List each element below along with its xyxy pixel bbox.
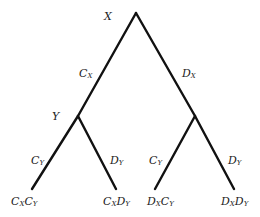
leaf-label-cxcy: CXCY [11,196,37,207]
leaf-label-dxcy: DXCY [147,196,174,207]
edge-left-right [78,116,116,189]
edge-left-left [32,116,78,189]
edge-label-left-cy: CY [31,155,44,166]
edge-root-left [78,13,136,116]
edge-right-left [155,116,195,189]
edge-right-right [195,116,234,189]
edge-root-right [136,13,195,116]
edge-label-right-dy: DY [228,155,241,166]
edge-label-right-cy: CY [149,155,162,166]
game-tree-diagram [0,0,260,217]
leaf-label-dxdy: DXDY [221,196,248,207]
node-label-x: X [104,11,112,22]
edge-label-left-dy: DY [110,155,123,166]
node-label-y: Y [52,111,59,122]
leaf-label-cxdy: CXDY [103,196,130,207]
edge-label-dx: DX [182,68,196,79]
edge-label-cx: CX [79,68,92,79]
